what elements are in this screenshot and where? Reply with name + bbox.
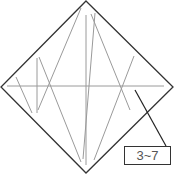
origami-diagram: 3~7 bbox=[0, 0, 175, 174]
step-label: 3~7 bbox=[124, 146, 171, 165]
crease-line bbox=[38, 8, 81, 110]
crease-line bbox=[91, 14, 130, 110]
crease-line bbox=[16, 77, 32, 113]
